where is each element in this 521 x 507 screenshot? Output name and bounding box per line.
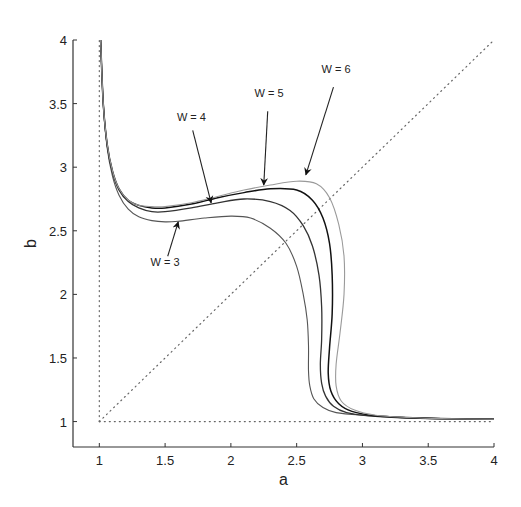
chart: W = 3W = 4W = 5W = 6 11.522.533.54 11.52… xyxy=(0,0,521,507)
annotation-label: W = 4 xyxy=(177,111,206,123)
reference-line xyxy=(99,40,494,422)
annotation-label: W = 6 xyxy=(322,63,351,75)
y-tick-label: 1.5 xyxy=(49,351,67,366)
annotation-label: W = 3 xyxy=(151,256,180,268)
y-tick-label: 4 xyxy=(60,33,67,48)
annotation-arrow xyxy=(193,130,211,202)
annotation-label: W = 5 xyxy=(255,87,284,99)
y-tick-label: 3.5 xyxy=(49,97,67,112)
reference-lines xyxy=(99,40,494,422)
y-tick-label: 2.5 xyxy=(49,224,67,239)
x-tick-label: 2 xyxy=(227,453,234,468)
axes: 11.522.533.54 11.522.533.54 a b xyxy=(22,33,498,488)
x-tick-label: 3 xyxy=(359,453,366,468)
annotations: W = 3W = 4W = 5W = 6 xyxy=(151,63,351,268)
y-tick-label: 3 xyxy=(60,160,67,175)
annotation-arrow xyxy=(168,222,179,256)
y-tick-label: 2 xyxy=(60,287,67,302)
y-tick-label: 1 xyxy=(60,415,67,430)
y-axis-label: b xyxy=(22,239,39,248)
x-tick-label: 1.5 xyxy=(156,453,174,468)
annotation-arrow xyxy=(306,87,334,175)
annotation-arrow xyxy=(264,111,268,185)
x-tick-label: 4 xyxy=(490,453,497,468)
x-tick-label: 1 xyxy=(96,453,103,468)
x-tick-label: 3.5 xyxy=(419,453,437,468)
x-tick-label: 2.5 xyxy=(288,453,306,468)
x-axis-label: a xyxy=(279,471,288,488)
